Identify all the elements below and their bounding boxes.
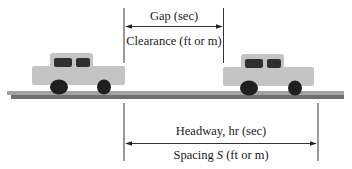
car-window xyxy=(54,58,72,67)
clearance-label: Clearance (ft or m) xyxy=(126,34,221,48)
headway-label: Headway, hr (sec) xyxy=(176,124,266,138)
spacing-label-prefix: Spacing xyxy=(173,148,216,162)
car-window xyxy=(267,59,281,68)
car-window xyxy=(76,58,90,67)
following-car xyxy=(32,53,125,95)
wheel xyxy=(97,80,111,95)
wheel xyxy=(288,81,302,96)
car-window xyxy=(245,59,263,68)
spacing-label: Spacing S (ft or m) xyxy=(173,148,268,162)
wheel xyxy=(240,81,258,96)
wheel xyxy=(50,80,68,95)
spacing-diagram xyxy=(0,0,352,169)
leading-car xyxy=(223,54,314,96)
gap-label: Gap (sec) xyxy=(150,9,198,23)
spacing-label-suffix: (ft or m) xyxy=(223,148,268,162)
